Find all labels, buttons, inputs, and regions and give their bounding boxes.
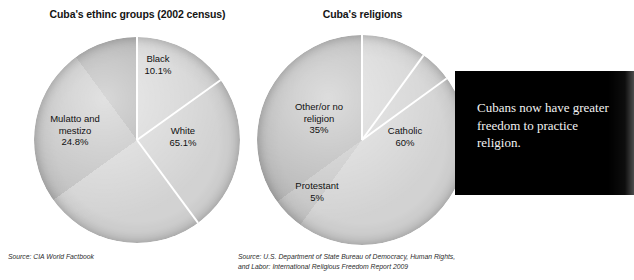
- slice-label-catholic: Catholic 60%: [372, 125, 438, 148]
- slice-label-mulatto: Mulatto and mestizo 24.8%: [31, 113, 119, 148]
- slice-label-protestant-value: 5%: [310, 192, 324, 203]
- infographic-canvas: Cuba's ethinc groups (2002 census) Black…: [0, 0, 634, 280]
- source-note-religion: Source: U.S. Department of State Bureau …: [238, 252, 455, 272]
- slice-label-other-name-2: religion: [304, 113, 335, 124]
- slice-label-catholic-value: 60%: [395, 137, 414, 148]
- callout-box: Cubans now have greater freedom to pract…: [455, 71, 634, 195]
- slice-label-other-religion: Other/or no religion 35%: [277, 101, 361, 136]
- slice-label-mulatto-name-2: mestizo: [59, 125, 92, 136]
- slice-label-white-name: White: [171, 125, 195, 136]
- slice-label-catholic-name: Catholic: [388, 125, 422, 136]
- slice-label-mulatto-value: 24.8%: [62, 136, 89, 147]
- chart-title-ethnic: Cuba's ethinc groups (2002 census): [0, 8, 275, 20]
- source-note-ethnic: Source: CIA World Factbook: [8, 252, 94, 262]
- slice-label-other-value: 35%: [309, 124, 328, 135]
- slice-label-other-name-1: Other/or no: [295, 101, 343, 112]
- slice-label-protestant: Protestant 5%: [278, 180, 356, 203]
- chart-title-religion: Cuba's religions: [255, 8, 470, 20]
- callout-text: Cubans now have greater freedom to pract…: [477, 99, 617, 152]
- slice-label-white-value: 65.1%: [170, 137, 197, 148]
- slice-label-white: White 65.1%: [148, 125, 218, 148]
- slice-label-black-value: 10.1%: [145, 65, 172, 76]
- slice-label-black: Black 10.1%: [123, 53, 193, 76]
- source-note-religion-line-1: Source: U.S. Department of State Bureau …: [238, 252, 455, 262]
- slice-label-mulatto-name-1: Mulatto and: [50, 113, 100, 124]
- source-note-religion-line-2: and Labor: International Religious Freed…: [238, 262, 455, 272]
- slice-label-protestant-name: Protestant: [295, 180, 338, 191]
- slice-label-black-name: Black: [146, 53, 169, 64]
